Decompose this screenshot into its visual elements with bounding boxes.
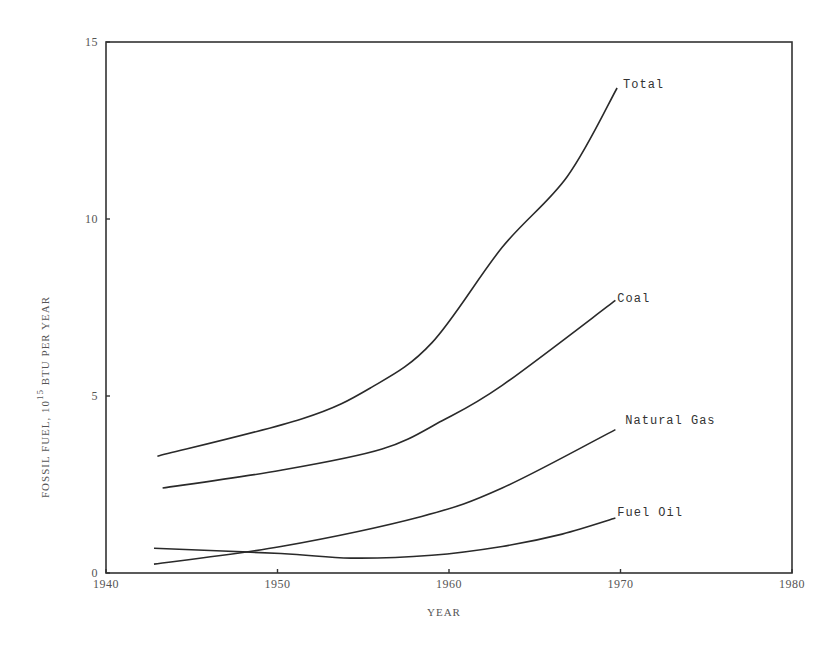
series-label-coal: Coal bbox=[617, 292, 650, 306]
series-line-total bbox=[157, 88, 617, 456]
y-axis-title-suffix: BTU PER YEAR bbox=[39, 296, 51, 389]
series-label-natural-gas: Natural Gas bbox=[625, 414, 715, 428]
plot-frame bbox=[106, 42, 792, 573]
x-tick-label: 1970 bbox=[608, 577, 634, 591]
series-line-coal bbox=[163, 300, 616, 488]
y-axis-title-exponent: 15 bbox=[35, 389, 45, 400]
y-tick-label: 0 bbox=[92, 566, 99, 580]
series-label-total: Total bbox=[623, 78, 664, 92]
x-tick-label: 1960 bbox=[436, 577, 462, 591]
y-axis-title-prefix: FOSSIL FUEL, 10 bbox=[39, 400, 51, 498]
x-tick-label: 1980 bbox=[779, 577, 805, 591]
y-tick-label: 5 bbox=[92, 389, 99, 403]
y-axis-title: FOSSIL FUEL, 1015 BTU PER YEAR bbox=[35, 296, 51, 498]
y-tick-label: 15 bbox=[85, 35, 98, 49]
series-lines: TotalCoalNatural GasFuel Oil bbox=[154, 78, 716, 564]
fossil-fuel-line-chart: 19401950196019701980 051015 TotalCoalNat… bbox=[0, 0, 826, 650]
series-line-fuel-oil bbox=[154, 518, 615, 558]
x-axis-title: YEAR bbox=[427, 606, 461, 618]
series-line-natural-gas bbox=[154, 430, 615, 564]
y-tick-label: 10 bbox=[85, 212, 98, 226]
series-label-fuel-oil: Fuel Oil bbox=[617, 506, 683, 520]
x-tick-label: 1950 bbox=[265, 577, 291, 591]
